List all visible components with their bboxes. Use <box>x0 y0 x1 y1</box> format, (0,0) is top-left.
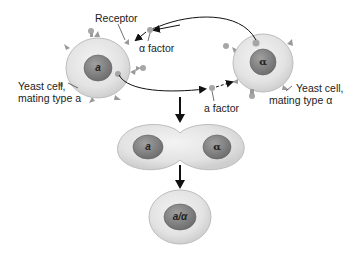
nucleus-a-label: a <box>90 63 106 73</box>
receptor-label: Receptor <box>95 12 138 24</box>
diploid-nucleus-label: a/α <box>166 212 194 222</box>
cell-alpha-label-line1: Yeast cell, <box>296 82 343 94</box>
nucleus-alpha-label: α <box>255 57 271 67</box>
cell-a-label-line1: Yeast cell, <box>18 80 65 92</box>
fusion-nucleus-alpha-label: α <box>209 142 225 152</box>
fusion-nucleus-a-label: a <box>140 142 156 152</box>
alpha-factor-path <box>151 17 256 40</box>
cell-alpha-label-line2: mating type α <box>269 94 332 106</box>
fusing-cells <box>117 124 244 169</box>
yeast-mating-diagram: Receptor α factor a factor Yeast cell, m… <box>0 0 358 257</box>
alpha-factor-label: α factor <box>139 42 174 54</box>
a-factor-label: a factor <box>204 102 239 114</box>
cell-a-label-line2: mating type a <box>18 92 81 104</box>
